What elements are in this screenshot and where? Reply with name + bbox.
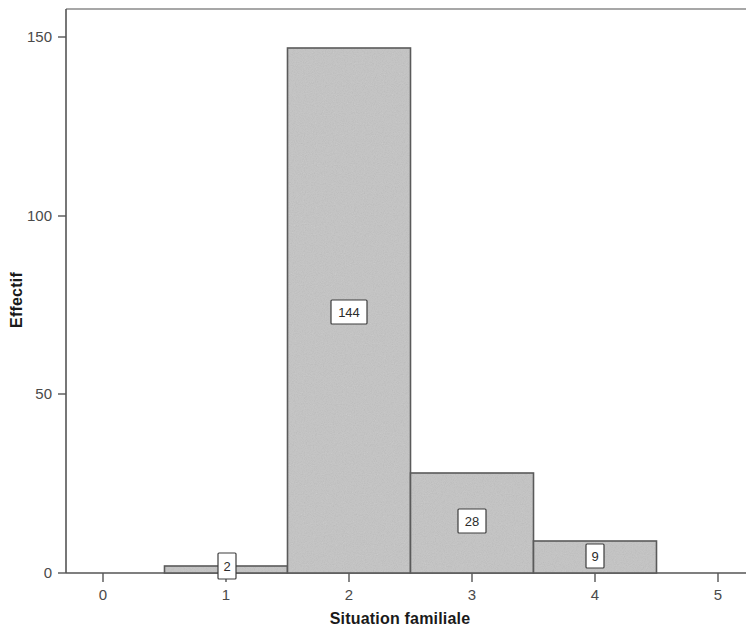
bar-value-label-4: 9 <box>586 544 604 568</box>
bar-value-text-1: 2 <box>223 559 230 574</box>
x-tick-label-5: 5 <box>714 586 722 603</box>
x-tick-label-1: 1 <box>222 586 230 603</box>
histogram-chart: 150 100 50 0 Effectif 0 1 2 3 4 5 <box>0 0 746 632</box>
x-tick-label-4: 4 <box>591 586 599 603</box>
bar-value-text-2: 144 <box>338 305 360 320</box>
x-tick-label-3: 3 <box>468 586 476 603</box>
bar-value-text-3: 28 <box>465 514 479 529</box>
bar-value-label-3: 28 <box>458 509 486 533</box>
bar-value-label-1: 2 <box>218 553 236 579</box>
x-tick-label-2: 2 <box>345 586 353 603</box>
x-tick-label-0: 0 <box>99 586 107 603</box>
bar-value-text-4: 9 <box>591 549 598 564</box>
x-axis-title: Situation familiale <box>330 610 471 627</box>
y-tick-label-150: 150 <box>27 28 52 45</box>
y-tick-label-0: 0 <box>44 564 52 581</box>
bar-value-label-2: 144 <box>331 300 367 324</box>
y-tick-label-50: 50 <box>35 385 52 402</box>
y-axis-title: Effectif <box>8 272 25 328</box>
chart-canvas: 150 100 50 0 Effectif 0 1 2 3 4 5 <box>0 0 746 632</box>
y-tick-label-100: 100 <box>27 207 52 224</box>
